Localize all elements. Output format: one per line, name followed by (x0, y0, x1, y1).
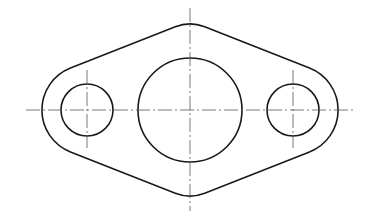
flange-drawing (0, 0, 376, 223)
drawing-canvas: Flange plate — front view (0, 0, 376, 223)
